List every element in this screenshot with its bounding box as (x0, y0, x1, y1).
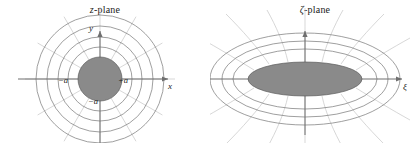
z-plane-x-axis-label: x (167, 81, 172, 91)
z-plane-y-axis-arrowhead (97, 31, 102, 37)
panel-zeta-plane: ζ-plane (210, 0, 420, 143)
zeta-plane-canvas: ξ (210, 0, 420, 143)
conformal-mapping-figure: z-plane (0, 0, 420, 143)
label-minus-a-left: −a (58, 75, 68, 85)
zeta-plane-shaded-ellipse (248, 62, 362, 96)
zeta-plane-xi-axis-label: ξ (403, 82, 407, 92)
zeta-plane-vertical-axis-arrowhead (302, 31, 307, 37)
label-minus-a-bottom: −a (88, 96, 98, 106)
label-plus-a-right: +a (118, 75, 128, 85)
z-plane-canvas: x y −a +a −a (0, 0, 210, 143)
z-plane-y-axis-label: y (88, 23, 93, 33)
zeta-plane-xi-axis-arrowhead (396, 76, 402, 81)
panel-z-plane: z-plane (0, 0, 210, 143)
z-plane-shaded-disk (78, 57, 122, 101)
